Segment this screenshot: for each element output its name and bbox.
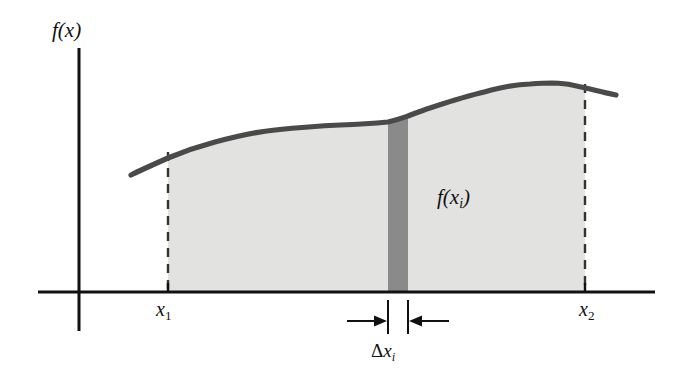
integral-area-figure: f(x) f(xi) x1 x2 Δxi <box>0 0 676 374</box>
upper-bound-variable: x <box>579 298 588 320</box>
slice-height-open-paren: ( <box>443 185 450 209</box>
upper-bound-subscript: 2 <box>588 308 595 323</box>
slice-height-close-paren: ) <box>463 185 470 209</box>
lower-bound-variable: x <box>156 298 165 320</box>
slice-width-arrow-left <box>347 316 387 327</box>
figure-canvas <box>0 0 676 374</box>
y-axis-label: f(x) <box>52 20 81 41</box>
lower-bound-subscript: 1 <box>165 308 172 323</box>
slice-width-subscript: i <box>392 350 395 364</box>
slice-height-variable: x <box>450 185 459 209</box>
shaded-area-under-curve <box>168 83 585 292</box>
lower-bound-label: x1 <box>156 299 171 322</box>
slice-width-variable: x <box>383 340 391 361</box>
upper-bound-label: x2 <box>579 299 594 322</box>
highlighted-slice <box>388 60 408 292</box>
y-axis-label-text: f(x) <box>52 18 81 42</box>
slice-height-label: f(xi) <box>437 187 470 211</box>
slice-width-arrow-right <box>409 316 449 327</box>
delta-symbol: Δ <box>371 340 383 361</box>
slice-width-label: Δxi <box>371 341 395 363</box>
